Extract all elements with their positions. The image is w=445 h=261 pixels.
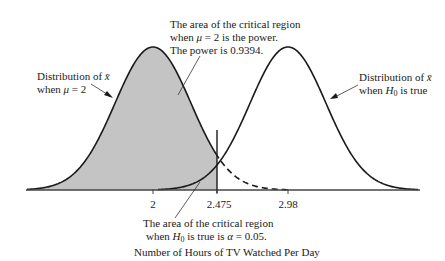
text: is true xyxy=(398,84,428,96)
xbar-symbol: x̄ xyxy=(105,70,110,82)
power-annotation: The area of the critical region when μ =… xyxy=(170,18,300,57)
text: is true is xyxy=(185,230,228,242)
tick-label-298: 2.98 xyxy=(278,198,297,210)
text: when xyxy=(146,230,173,242)
text: when xyxy=(37,83,64,95)
power-text-line2: when μ = 2 is the power. xyxy=(170,31,300,44)
tick-label-2: 2 xyxy=(150,198,156,210)
right-distribution-dashed-tail xyxy=(221,161,288,190)
tick-label-2475: 2.475 xyxy=(207,198,232,210)
h-symbol: H xyxy=(386,84,394,96)
power-text-line3: The power is 0.9394. xyxy=(170,44,300,57)
x-axis-label: Number of Hours of TV Watched Per Day xyxy=(134,246,320,259)
left-dist-line1: Distribution of x̄ xyxy=(37,70,110,83)
left-dist-line2: when μ = 2 xyxy=(37,83,110,96)
h-symbol: H xyxy=(173,230,181,242)
xbar-symbol: x̄ xyxy=(427,71,432,83)
right-dist-line2: when H0 is true xyxy=(359,84,432,97)
right-dist-line1: Distribution of x̄ xyxy=(359,71,432,84)
power-region xyxy=(27,47,217,190)
left-distribution-label: Distribution of x̄ when μ = 2 xyxy=(37,70,110,96)
text: when xyxy=(170,31,197,43)
power-pointer xyxy=(178,56,200,95)
text: = 2 is the power. xyxy=(202,31,278,43)
right-dist-arrowhead xyxy=(330,93,338,99)
alpha-text-line1: The area of the critical region xyxy=(143,217,273,230)
text: Distribution of xyxy=(359,71,427,83)
text: = 0.05. xyxy=(233,230,267,242)
text: Distribution of xyxy=(37,70,105,82)
text: = 2 xyxy=(69,83,86,95)
text: when xyxy=(359,84,386,96)
alpha-text-line2: when H0 is true is α = 0.05. xyxy=(143,230,273,243)
power-text-line1: The area of the critical region xyxy=(170,18,300,31)
right-distribution-label: Distribution of x̄ when H0 is true xyxy=(359,71,432,97)
alpha-annotation: The area of the critical region when H0 … xyxy=(143,217,273,243)
